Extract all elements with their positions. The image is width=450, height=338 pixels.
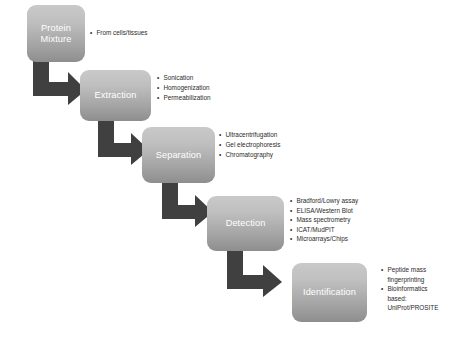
bullets-extraction: Sonication Homogenization Permeabilizati…	[157, 73, 277, 103]
stage-label-detection: Detection	[207, 218, 284, 229]
bullets-identification: Peptide mass fingerprinting Bioinformati…	[381, 265, 449, 313]
stage-label-extraction: Extraction	[80, 90, 151, 101]
bullets-detection: Bradford/Lowry assay ELISA/Western Blot …	[290, 196, 420, 244]
bullets-protein-mixture: From cells/tissues	[90, 28, 200, 38]
bullets-separation: Ultracentrifugation Gel electrophoresis …	[219, 130, 344, 160]
stage-box-detection[interactable]: Detection	[207, 196, 284, 251]
list-item: Ultracentrifugation	[219, 130, 344, 140]
list-item: Homogenization	[157, 83, 277, 93]
list-item: Permeabilization	[157, 93, 277, 103]
list-item: Bradford/Lowry assay	[290, 196, 420, 206]
stage-label-separation: Separation	[142, 150, 215, 161]
list-item: Gel electrophoresis	[219, 140, 344, 150]
list-item: Mass spectrometry	[290, 215, 420, 225]
workflow-diagram: Protein Mixture From cells/tissues Extra…	[0, 0, 450, 338]
stage-label-identification: Identification	[292, 287, 367, 298]
list-item: Chromatography	[219, 150, 344, 160]
list-item: Microarrays/Chips	[290, 234, 420, 244]
list-item: Sonication	[157, 73, 277, 83]
stage-box-protein-mixture[interactable]: Protein Mixture	[27, 5, 85, 62]
list-item: Peptide mass fingerprinting	[381, 265, 449, 284]
arrow-detection-to-identification	[222, 246, 287, 298]
list-item: ELISA/Western Blot	[290, 206, 420, 216]
list-item: ICAT/MudPIT	[290, 225, 420, 235]
stage-box-identification[interactable]: Identification	[292, 263, 367, 322]
stage-box-extraction[interactable]: Extraction	[80, 70, 151, 121]
stage-box-separation[interactable]: Separation	[142, 127, 215, 183]
stage-label-protein-mixture: Protein Mixture	[27, 23, 85, 44]
list-item: From cells/tissues	[90, 28, 200, 38]
list-item: Bioinformatics based: UniProt/PROSITE	[381, 284, 449, 313]
